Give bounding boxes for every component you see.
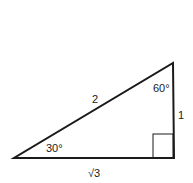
hypotenuse-label: 2	[92, 93, 98, 105]
right-angle-marker	[153, 134, 173, 158]
triangle-outline	[14, 63, 174, 158]
triangle-diagram: 2 1 √3 30° 60°	[0, 0, 193, 183]
angle-60-label: 60°	[153, 82, 170, 94]
angle-30-label: 30°	[46, 142, 63, 154]
base-label: √3	[88, 167, 100, 179]
vertical-leg-label: 1	[178, 109, 184, 121]
